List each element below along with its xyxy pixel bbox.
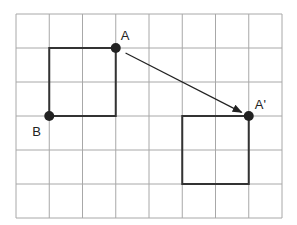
translation-arrow bbox=[126, 53, 242, 112]
translation-diagram: A B A' bbox=[0, 0, 297, 225]
point-b-label: B bbox=[32, 124, 41, 139]
point-b-dot bbox=[44, 111, 54, 121]
point-a-dot bbox=[111, 43, 121, 53]
point-a-label: A bbox=[121, 28, 130, 43]
point-a-prime-label: A' bbox=[255, 97, 266, 112]
point-a-prime-dot bbox=[244, 111, 254, 121]
